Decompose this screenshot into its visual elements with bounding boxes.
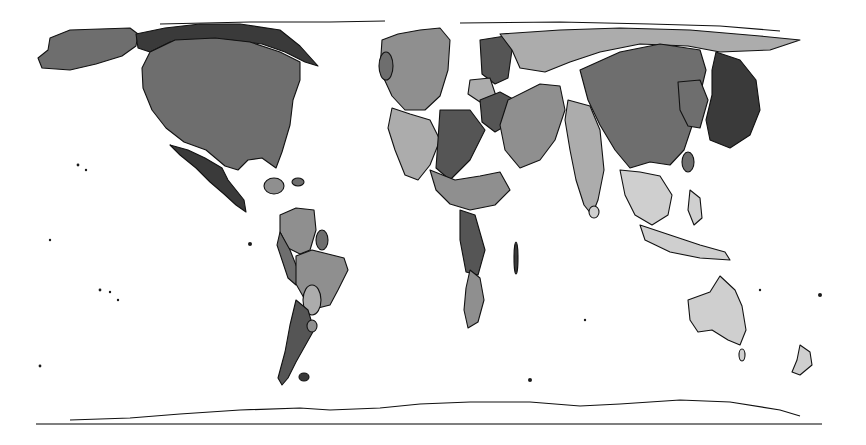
region-japan (706, 52, 760, 148)
region-australia (688, 276, 746, 345)
region-falklands (299, 373, 309, 381)
region-cuba (264, 178, 284, 194)
region-southeast-asia (620, 170, 672, 225)
region-taiwan (682, 152, 694, 172)
region-caribbean-island (292, 178, 304, 186)
region-africa-central (430, 170, 510, 210)
region-united-states (142, 38, 300, 170)
region-africa-south (460, 210, 485, 275)
region-philippines (688, 190, 702, 225)
region-south-africa (464, 270, 484, 328)
region-guyana (316, 230, 328, 250)
cartogram-map (0, 0, 866, 445)
region-new-zealand (792, 345, 812, 375)
region-uruguay (307, 320, 317, 332)
region-tasmania (739, 349, 745, 361)
region-sri-lanka (589, 206, 599, 218)
region-africa-north (388, 108, 440, 180)
map-canvas (0, 0, 866, 445)
region-africa-northeast (436, 110, 485, 180)
region-madagascar (514, 242, 518, 274)
pacific-island-dots (39, 164, 822, 382)
region-argentina-chile (278, 300, 314, 385)
region-uk (379, 52, 393, 80)
region-indonesia (640, 225, 730, 260)
region-antarctica (70, 400, 800, 420)
region-alaska (38, 28, 138, 70)
